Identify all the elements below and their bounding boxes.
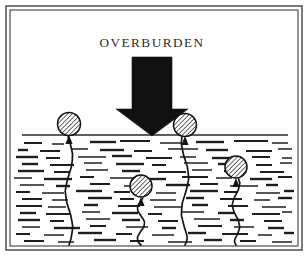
gas-bubble-1 <box>58 113 81 136</box>
gas-bubble-4 <box>225 156 247 178</box>
gas-bubble-3 <box>130 175 152 197</box>
overburden-figure: OVERBURDEN <box>0 0 308 261</box>
figure-title: OVERBURDEN <box>99 35 204 50</box>
gas-bubble-2 <box>174 114 197 137</box>
diagram-canvas: OVERBURDEN <box>0 0 308 261</box>
